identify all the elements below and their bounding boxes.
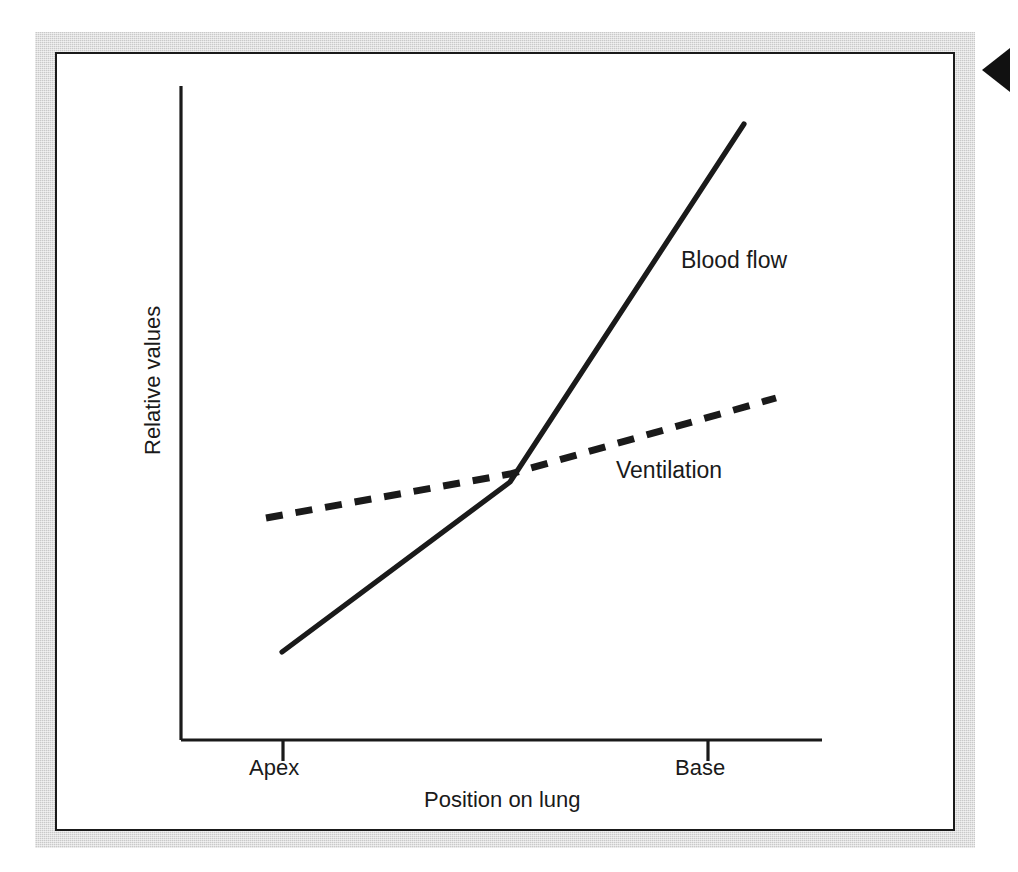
- x-tick-label-base: Base: [675, 757, 725, 779]
- x-tick-label-apex: Apex: [249, 757, 299, 779]
- left-triangle-icon: [982, 48, 1010, 92]
- series-label-blood-flow: Blood flow: [681, 249, 787, 272]
- scanned-figure-page: Relative values Apex Base Position on lu…: [0, 0, 1018, 872]
- x-axis-title: Position on lung: [424, 789, 581, 811]
- y-axis-title-text: Relative values: [140, 306, 166, 455]
- figure-panel: [55, 52, 955, 831]
- series-label-ventilation: Ventilation: [616, 459, 722, 482]
